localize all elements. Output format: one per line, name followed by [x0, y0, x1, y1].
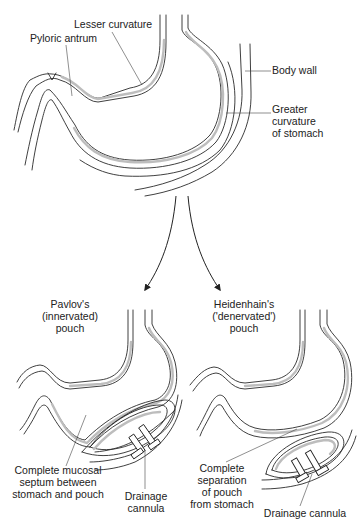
- heidenhain-pouch-illustration: Heidenhain's ('denervated') pouch Comple…: [190, 298, 356, 519]
- top-stomach-illustration: Lesser curvature Pyloric antrum Body wal…: [14, 15, 324, 196]
- pavlov-lesser-mucosa: [70, 342, 131, 386]
- heidenhain-separation-label-2: separation: [197, 474, 246, 486]
- heidenhain-title-2: ('denervated'): [212, 310, 276, 322]
- pavlov-title-2: (innervated): [42, 310, 98, 322]
- heidenhain-pouch-inner: [272, 437, 338, 473]
- leader-pyloric-antrum: [66, 45, 72, 96]
- label-pyloric-antrum: Pyloric antrum: [30, 32, 97, 44]
- heidenhain-separation-label-3: of pouch: [202, 486, 242, 498]
- pavlov-greater-inner: [20, 310, 170, 440]
- heidenhain-drainage-cannula: [291, 450, 328, 482]
- label-body-wall: Body wall: [272, 64, 317, 76]
- label-lesser-curvature: Lesser curvature: [74, 18, 152, 30]
- label-greater-curvature-1: Greater: [272, 103, 308, 115]
- pavlov-pouch-illustration: Pavlov's (innervated) pouch Complete muc…: [12, 298, 182, 514]
- pavlov-septum-label-2: septum between: [19, 476, 96, 488]
- label-greater-curvature-2: curvature: [272, 115, 316, 127]
- heidenhain-separation-label-1: Complete: [200, 462, 245, 474]
- pavlov-cannula-label-2: cannula: [128, 502, 165, 514]
- heidenhain-title-1: Heidenhain's: [214, 298, 274, 310]
- heidenhain-greater-inner: [197, 310, 345, 430]
- pavlov-title-1: Pavlov's: [51, 298, 90, 310]
- pavlov-septum-label-3: stomach and pouch: [12, 488, 104, 500]
- label-greater-curvature-3: of stomach: [272, 127, 324, 139]
- leader-lesser-curvature: [112, 32, 142, 85]
- arrow-to-heidenhain: [188, 196, 220, 290]
- pavlov-title-3: pouch: [56, 322, 85, 334]
- pavlov-cannula-label-1: Drainage: [125, 490, 168, 502]
- heidenhain-separation-label-4: from stomach: [190, 498, 254, 510]
- pavlov-septum-label-1: Complete mucosal: [15, 464, 102, 476]
- heidenhain-cannula-label: Drainage cannula: [264, 507, 346, 519]
- heidenhain-title-3: pouch: [230, 322, 259, 334]
- heidenhain-pouch-mucosa: [276, 440, 335, 469]
- greater-curvature-mucosa: [74, 32, 223, 162]
- stomach-pouch-diagram: Lesser curvature Pyloric antrum Body wal…: [0, 0, 361, 530]
- leader-septum: [66, 415, 86, 466]
- leader-separation: [226, 429, 297, 462]
- arrow-to-pavlov: [145, 196, 176, 290]
